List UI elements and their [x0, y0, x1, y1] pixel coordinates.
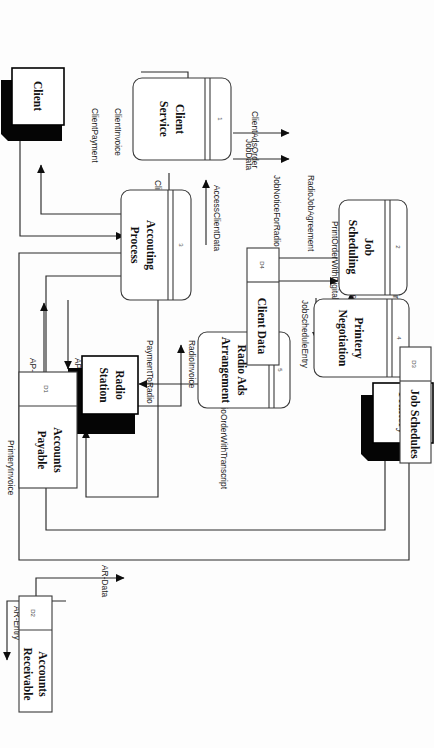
- flow-label-client-payment: ClientPayment: [90, 108, 100, 163]
- flow-job-data-1to2: JobData: [233, 133, 289, 171]
- diagram-rotation-wrapper: AdvertisingJobOrder ClientDataEntry Acce…: [0, 0, 434, 748]
- process-1-label-line1: Client: [174, 104, 186, 134]
- datastore-d3-job-schedules[interactable]: D3 Job Schedules: [400, 347, 431, 463]
- datastore-d2-label-line2: Receivable: [22, 647, 34, 700]
- process-1-client-service[interactable]: 1 Client Service: [133, 78, 231, 160]
- entity-radio-station-label-line2: Station: [98, 367, 110, 403]
- datastore-d3-code: D3: [411, 360, 417, 368]
- flow-label-job-data-a: JobData: [244, 139, 254, 171]
- flow-label-radio-invoice: RadioInvoice: [187, 340, 197, 389]
- process-3-label-line2: Process: [129, 227, 141, 264]
- datastore-d2-code: D2: [30, 609, 36, 617]
- process-4-label-line1: Printery: [352, 317, 365, 359]
- datastore-d2-label-line1: Accounts: [37, 651, 49, 697]
- datastore-d1-label-line2: Payable: [35, 431, 48, 470]
- flow-label-job-schedule-entry: JobScheduleEntry: [300, 300, 310, 369]
- entity-radio-station-box: [82, 356, 138, 414]
- process-2-label-line1: Job: [363, 238, 375, 256]
- process-4-label-line2: Negotiation: [336, 310, 349, 367]
- diagram-canvas: AdvertisingJobOrder ClientDataEntry Acce…: [0, 0, 434, 748]
- flow-label-payment-to-radio: PaymentToRadio: [145, 340, 155, 404]
- process-5-label-line1: Radio Ads: [236, 345, 248, 396]
- datastore-d3-label: Job Schedules: [409, 389, 421, 459]
- process-4-printery-negotiation[interactable]: 4 Printery Negotiation: [314, 299, 409, 377]
- flow-label-ap-data-line1: AP-: [28, 358, 38, 372]
- flow-client-ads-order: ClientAdsOrder: [233, 111, 289, 168]
- datastore-d1-code: D1: [43, 385, 49, 393]
- flow-label-client-invoice: ClientInvoice: [113, 108, 123, 156]
- process-3-accounting-process[interactable]: 3 Accouting Process: [121, 190, 191, 300]
- datastore-d4-client-data[interactable]: D4 Client Data: [247, 248, 279, 365]
- datastore-d1-label-line1: Accounts: [52, 427, 64, 473]
- flow-label-radio-job-agreement: RadioJobAgreement: [306, 175, 316, 252]
- datastore-d1-accounts-payable[interactable]: D1 Accounts Payable: [19, 372, 77, 488]
- datastore-d4-code: D4: [259, 261, 265, 269]
- entity-client[interactable]: Client: [1, 68, 64, 141]
- process-1-label-line2: Service: [158, 101, 170, 137]
- datastore-d2-accounts-receivable[interactable]: D2 Accounts Receivable: [19, 596, 52, 712]
- process-2-job-scheduling[interactable]: 2 Job Scheduling: [339, 200, 407, 295]
- datastore-d4-label: Client Data: [256, 298, 268, 355]
- process-5-label-line2: Arrangement: [219, 337, 232, 404]
- flow-label-printery-invoice: PrinteryInvoice: [6, 440, 16, 496]
- flow-label-access-client-data: AccessClientData: [212, 185, 222, 251]
- process-3-label-line1: Accouting: [144, 220, 157, 270]
- dfd-svg: AdvertisingJobOrder ClientDataEntry Acce…: [0, 0, 434, 748]
- flow-label-job-notice-for-radio: JobNoticeForRadio: [272, 175, 282, 247]
- entity-client-label: Client: [32, 81, 44, 111]
- flow-label-ar-data: AR-Data: [100, 565, 110, 597]
- flow-access-client-data: AccessClientData: [206, 180, 222, 251]
- entity-radio-station-label-line1: Radio: [114, 370, 126, 400]
- process-2-label-line2: Scheduling: [346, 220, 359, 275]
